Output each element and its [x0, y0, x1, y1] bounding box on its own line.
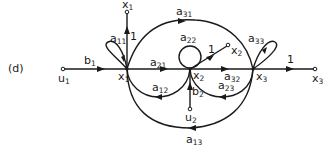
label-a32: a32: [224, 70, 241, 84]
label-a22: a22: [180, 31, 197, 45]
node-x3-out: [313, 67, 317, 71]
arrow-b1: [97, 66, 105, 72]
label-x3-out: x3: [312, 72, 324, 86]
figure-label: (d): [8, 62, 24, 75]
label-b1: b1: [84, 54, 96, 68]
label-x1-out: x1: [122, 0, 134, 12]
node-x1: [125, 67, 128, 70]
label-b2: b2: [192, 85, 204, 99]
label-a21: a21: [150, 56, 167, 70]
node-x3: [251, 67, 254, 70]
label-a33: a33: [248, 32, 265, 46]
arrow-a13: [188, 125, 196, 131]
label-one-x3: 1: [287, 53, 294, 66]
label-x3: x3: [256, 70, 268, 84]
arrow-one-x3: [286, 66, 294, 72]
label-u1: u1: [58, 72, 70, 86]
label-a13: a13: [186, 133, 203, 147]
label-a31: a31: [176, 5, 193, 19]
node-x2: [188, 67, 191, 70]
arrow-a11: [121, 55, 125, 62]
arrow-a23: [219, 94, 226, 100]
label-one-x2: 1: [208, 43, 215, 56]
label-one-x1: 1: [130, 30, 137, 43]
label-x2: x2: [193, 69, 205, 83]
label-a11: a11: [110, 32, 127, 46]
signal-flow-graph: (d) u1 x1 x2 x3 x3 x1 x2 u2: [0, 0, 332, 149]
label-u2: u2: [185, 111, 197, 125]
node-x2-out: [226, 43, 230, 47]
node-u1: [61, 67, 65, 71]
label-x2-out: x2: [231, 44, 243, 58]
label-a12: a12: [152, 81, 169, 95]
